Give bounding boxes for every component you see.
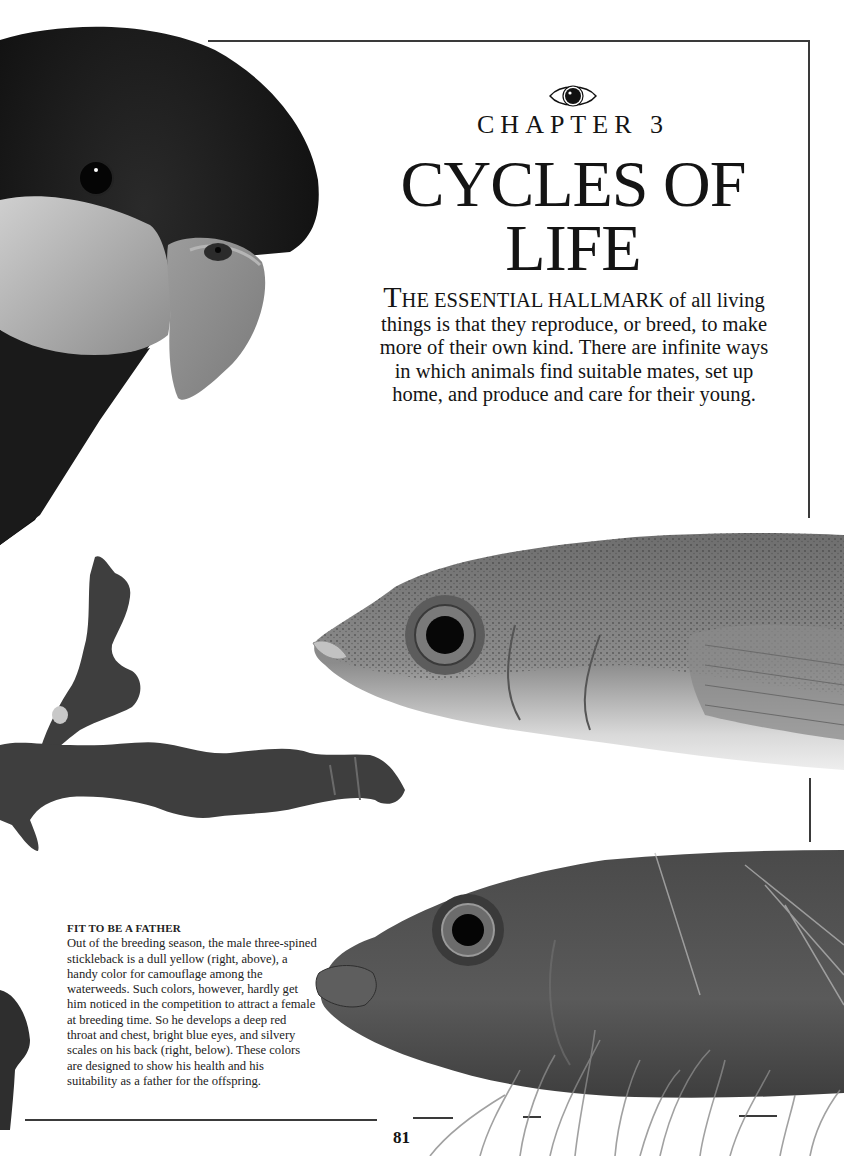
stickleback-dull-photo [305, 525, 844, 780]
parrot-head-photo [0, 20, 330, 550]
chapter-intro: THE ESSENTIAL HALLMARK of all living thi… [378, 285, 770, 407]
caption-title: FIT TO BE A FATHER [67, 921, 317, 936]
photo-caption: FIT TO BE A FATHER Out of the breeding s… [67, 921, 317, 1089]
twig-fragment-photo [0, 985, 40, 1135]
intro-smallcaps-lead: HE ESSENTIAL HALLMARK [402, 289, 664, 311]
right-frame-rule-upper [808, 40, 810, 518]
chapter-title-line-1: CYCLES OF [401, 147, 746, 220]
eye-icon [548, 81, 598, 111]
intro-dropcap: T [383, 280, 401, 313]
page-number: 81 [393, 1128, 410, 1148]
chapter-title: CYCLES OF LIFE [380, 152, 766, 280]
caption-body: Out of the breeding season, the male thr… [67, 936, 317, 1088]
chapter-label: CHAPTER 3 [380, 110, 766, 140]
chapter-title-line-2: LIFE [505, 211, 640, 284]
waterweed-grass-photo [400, 1000, 844, 1156]
right-frame-rule-lower [809, 778, 811, 842]
